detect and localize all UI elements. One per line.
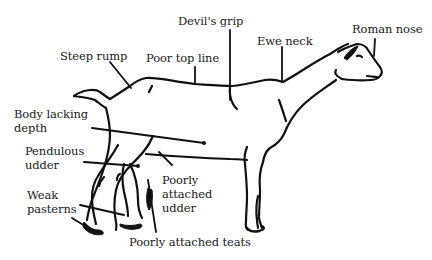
label-poorly-attached-udder: Poorly attached udder <box>162 173 212 215</box>
label-weak-pasterns: Weak pasterns <box>27 188 77 216</box>
leader-weak-pasterns-1 <box>80 205 124 215</box>
label-pendulous-udder: Pendulous udder <box>25 144 84 172</box>
goat-rear-hoof-2 <box>120 224 142 229</box>
leader-steep-rump <box>110 62 131 88</box>
goat-eye <box>357 56 362 57</box>
goat-head <box>338 44 382 80</box>
leader-roman-nose <box>374 39 375 56</box>
goat-tail <box>74 90 110 108</box>
leader-poorly-attached-udder <box>159 152 172 165</box>
goat-neck-front <box>263 80 336 162</box>
label-steep-rump: Steep rump <box>60 49 127 63</box>
leader-dot-body <box>202 141 206 145</box>
leader-dot-udder <box>136 164 140 168</box>
label-roman-nose: Roman nose <box>352 22 422 36</box>
goat-mouth <box>367 76 377 77</box>
label-poorly-attached-teats: Poorly attached teats <box>129 235 251 249</box>
goat-front-leg-front <box>259 162 263 228</box>
goat-hip-mark <box>149 86 152 92</box>
goat-rear-hoof-1 <box>83 222 103 235</box>
label-devils-grip: Devil's grip <box>178 14 243 28</box>
goat-rear-leg-4 <box>130 164 142 218</box>
label-ewe-neck: Ewe neck <box>257 34 313 48</box>
leader-weak-pasterns-2 <box>72 218 85 226</box>
goat-conformation-diagram: Devil's grip Roman nose Ewe neck Steep r… <box>0 0 432 260</box>
goat-rear-leg-2 <box>115 136 154 230</box>
label-body-lacking-depth: Body lacking depth <box>14 107 88 135</box>
goat-front-leg-inner <box>256 196 258 228</box>
goat-shoulder-mark <box>279 100 286 121</box>
label-poor-top-line: Poor top line <box>146 51 219 65</box>
goat-jaw <box>335 70 342 79</box>
goat-body-outline <box>74 44 382 235</box>
